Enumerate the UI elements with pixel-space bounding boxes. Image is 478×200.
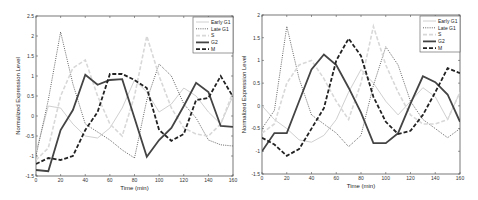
x-tick-label: 80: [358, 175, 364, 181]
legend-label: G2: [438, 38, 445, 44]
x-tick-label: 100: [155, 177, 164, 183]
x-tick-label: 120: [180, 177, 189, 183]
y-tick-label: 0.5: [253, 80, 260, 86]
y-tick-label: 2: [257, 12, 260, 18]
x-axis-label: Time (min): [120, 185, 148, 191]
x-tick-label: 0: [261, 175, 264, 181]
x-tick-label: 40: [309, 175, 315, 181]
x-tick-label: 140: [204, 177, 213, 183]
x-tick-label: 100: [382, 175, 391, 181]
y-tick-label: 1: [31, 73, 34, 79]
legend: Early G1Late G1SG2M: [193, 17, 233, 53]
y-tick-label: -1: [30, 153, 35, 159]
x-tick-label: 60: [333, 175, 339, 181]
y-tick-label: 2.5: [27, 13, 34, 19]
legend-label: G2: [211, 39, 218, 45]
x-tick-label: 80: [132, 177, 138, 183]
y-axis-label: Normalized Expression Level: [241, 56, 247, 134]
y-tick-label: -0.5: [25, 133, 34, 139]
y-tick-label: -1: [256, 148, 261, 154]
y-axis-label: Normalized Expression Level: [15, 57, 21, 135]
legend-label: Early G1: [211, 19, 231, 25]
y-tick-label: 0: [31, 113, 34, 119]
chart-right: 020406080100120140160-1.5-1-0.500.511.52…: [239, 0, 478, 200]
y-tick-label: 1: [257, 57, 260, 63]
line-chart-right: 020406080100120140160-1.5-1-0.500.511.52…: [239, 0, 478, 200]
y-tick-label: 0: [257, 103, 260, 109]
y-tick-label: 1.5: [253, 35, 260, 41]
x-tick-label: 20: [284, 175, 290, 181]
chart-left: 020406080100120140160-1.5-1-0.500.511.52…: [0, 0, 239, 200]
legend-label: Late G1: [211, 26, 229, 32]
x-tick-label: 20: [58, 177, 64, 183]
y-tick-label: 1.5: [27, 53, 34, 59]
legend-label: Early G1: [438, 18, 458, 24]
x-tick-label: 160: [229, 177, 238, 183]
x-tick-label: 60: [107, 177, 113, 183]
y-tick-label: -1.5: [25, 173, 34, 179]
x-axis-label: Time (min): [347, 183, 375, 189]
y-tick-label: 2: [31, 33, 34, 39]
x-tick-label: 40: [82, 177, 88, 183]
x-tick-label: 0: [35, 177, 38, 183]
y-tick-label: 0.5: [27, 93, 34, 99]
legend-label: M: [211, 46, 215, 52]
legend-label: M: [438, 45, 442, 51]
x-tick-label: 120: [406, 175, 415, 181]
legend: Early G1Late G1SG2M: [420, 16, 460, 52]
line-chart-left: 020406080100120140160-1.5-1-0.500.511.52…: [0, 0, 239, 200]
x-tick-label: 140: [431, 175, 440, 181]
legend-label: Late G1: [438, 25, 456, 31]
y-tick-label: -0.5: [251, 125, 260, 131]
x-tick-label: 160: [456, 175, 465, 181]
y-tick-label: -1.5: [251, 171, 260, 177]
